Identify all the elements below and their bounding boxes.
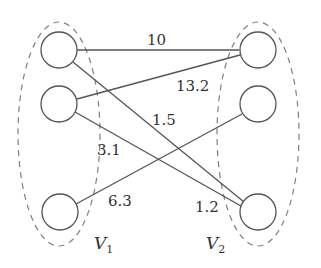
bipartite-graph: 10 13.2 1.5 3.1 6.3 1.2 V1 V2 (0, 0, 321, 268)
edge-label-1-5: 1.5 (152, 111, 176, 129)
node-l1 (41, 32, 77, 68)
set-label-v2: V2 (206, 233, 225, 256)
edge-label-13-2: 13.2 (176, 77, 209, 95)
edge-label-3-1: 3.1 (97, 141, 121, 159)
edge-label-6-3: 6.3 (108, 192, 132, 210)
node-l2 (41, 86, 77, 122)
node-r3 (240, 194, 276, 230)
set-label-v1: V1 (94, 233, 113, 256)
node-l3 (42, 194, 78, 230)
edge-label-1-2: 1.2 (195, 198, 219, 216)
edge-label-10: 10 (147, 31, 166, 49)
node-r2 (240, 86, 276, 122)
node-r1 (240, 32, 276, 68)
edge-l2-r1 (77, 55, 240, 99)
edge-l1-r3 (73, 62, 244, 202)
